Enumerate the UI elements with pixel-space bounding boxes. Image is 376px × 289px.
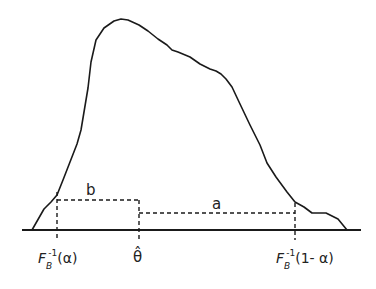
right-quantile-sup: -1 xyxy=(286,248,295,258)
left-quantile-label: FB-1(α) xyxy=(38,251,77,265)
right-quantile-arg: (1- α) xyxy=(295,250,334,266)
right-quantile-sub: B xyxy=(284,261,290,271)
right-quantile-label: FB-1(1- α) xyxy=(276,251,334,265)
right-quantile-F: F xyxy=(276,250,284,266)
theta-hat-label: θ̂ xyxy=(133,250,142,265)
left-quantile-F: F xyxy=(38,250,46,266)
a-label: a xyxy=(212,197,221,212)
density-curve xyxy=(32,19,347,230)
b-label: b xyxy=(86,183,96,198)
left-quantile-sup: -1 xyxy=(48,248,57,258)
left-quantile-arg: (α) xyxy=(57,250,77,266)
left-quantile-sub: B xyxy=(46,261,52,271)
distribution-diagram xyxy=(0,0,376,289)
